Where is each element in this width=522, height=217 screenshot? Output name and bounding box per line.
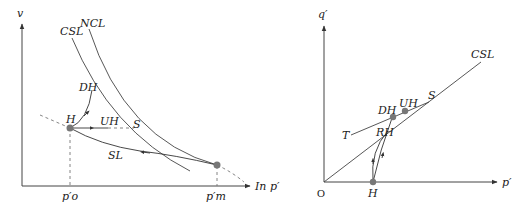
p-axis-label: p′ xyxy=(502,176,512,189)
left-panel: v In p′ CSL NCL DH H UH S SL p′o p′m xyxy=(17,7,280,203)
h-point-label: H xyxy=(367,187,378,200)
csl-line xyxy=(324,62,481,182)
s-label: S xyxy=(133,118,141,131)
arrow-dh xyxy=(382,154,383,158)
ncl-label: NCL xyxy=(79,17,105,30)
lnp-axis-label: In p′ xyxy=(254,180,280,193)
sl-label: SL xyxy=(108,149,123,162)
csl-curve xyxy=(72,38,190,171)
q-axis-label: q′ xyxy=(318,8,328,21)
s-point-label: S xyxy=(428,89,436,102)
p-o-tick-label: p′o xyxy=(62,190,79,203)
rh-label: RH xyxy=(375,126,394,139)
right-panel: q′ p′ O CSL T RH DH UH S H xyxy=(317,8,512,200)
p-m-tick-label: p′m xyxy=(206,190,226,203)
dh-label: DH xyxy=(78,81,98,94)
sl-path xyxy=(70,128,217,165)
dh-point-label: DH xyxy=(377,104,397,117)
diagram-canvas: v In p′ CSL NCL DH H UH S SL p′o p′m xyxy=(0,0,522,217)
uh-point-label: UH xyxy=(399,97,418,110)
origin-label: O xyxy=(317,187,325,199)
h-label: H xyxy=(65,113,76,126)
v-axis-label: v xyxy=(17,7,24,20)
ncl-curve xyxy=(89,29,217,165)
point-pm xyxy=(214,162,221,169)
t-label: T xyxy=(342,129,351,142)
swelling-line-dashed-2 xyxy=(217,165,244,182)
point-h-right xyxy=(370,179,376,185)
csl-line-label: CSL xyxy=(471,48,494,61)
uh-label: UH xyxy=(100,115,119,128)
